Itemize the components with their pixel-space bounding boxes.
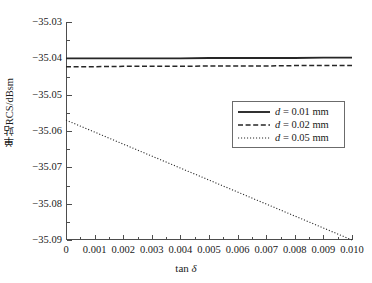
legend-item: d = 0.02 mm [237,118,340,131]
x-tick-major [352,235,353,240]
y-axis-title: 单站RCS/dBsm [4,78,20,147]
legend-line-sample-solid [237,106,271,117]
legend-label-value: = 0.02 mm [280,119,329,130]
legend-item: d = 0.01 mm [237,105,340,118]
legend-line-sample-dashed [237,119,271,130]
y-tick-label: −35.04 [18,53,62,64]
legend-line-sample-dotted [237,132,271,143]
y-tick-label: −35.05 [18,90,62,101]
y-tick-label: −35.07 [18,162,62,173]
x-axis-title-prefix: tan [175,262,191,274]
series-line-solid [66,58,352,59]
chart-figure: 单站RCS/dBsm −35.03−35.04−35.05−35.06−35.0… [0,0,372,283]
legend-label-value: = 0.05 mm [280,132,329,143]
x-tick-label: 0.010 [332,245,372,256]
y-tick-label: −35.06 [18,126,62,137]
y-tick-label: −35.03 [18,17,62,28]
y-tick-label: −35.09 [18,235,62,246]
x-axis-title-symbol: δ [192,262,197,274]
legend: d = 0.01 mmd = 0.02 mmd = 0.05 mm [232,101,345,148]
legend-label-value: = 0.01 mm [280,106,329,117]
x-axis-title: tan δ [0,262,372,274]
series-line-dashed [66,66,352,67]
y-tick-label: −35.08 [18,199,62,210]
y-tick-major [67,240,72,241]
legend-label: d = 0.01 mm [271,106,329,117]
legend-label: d = 0.05 mm [271,132,329,143]
legend-item: d = 0.05 mm [237,131,340,144]
legend-label: d = 0.02 mm [271,119,329,130]
